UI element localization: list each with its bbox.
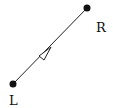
node-l: [10, 81, 17, 88]
diagram-canvas: R L: [0, 0, 113, 108]
arrowhead-icon: [39, 47, 51, 60]
label-l: L: [9, 94, 18, 107]
label-r: R: [96, 21, 106, 34]
node-r: [84, 5, 91, 12]
edge-l-to-r: [13, 8, 87, 84]
diagram-svg: [0, 0, 113, 108]
